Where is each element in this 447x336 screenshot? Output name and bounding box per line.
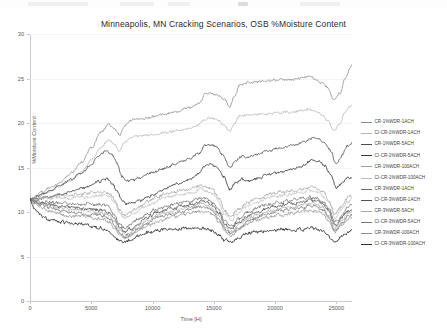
x-tick-mark — [153, 301, 154, 304]
legend-label: CI-CR-1%WDR-5ACH — [375, 154, 421, 159]
legend-item[interactable]: CI-CR-3%WDR-1ACH — [361, 195, 447, 206]
x-tick-mark — [91, 301, 92, 304]
legend-item[interactable]: CI-CR-1%WDR-5ACH — [361, 150, 447, 161]
plot-area — [30, 34, 352, 301]
legend-label: CI-CR-1%WDR-100ACH — [375, 176, 426, 181]
legend-item[interactable]: CR-1%WDR-1ACH — [361, 117, 447, 128]
y-tick-mark — [27, 212, 30, 213]
y-tick-mark — [27, 34, 30, 35]
series-line — [30, 199, 352, 243]
x-tick-mark — [214, 301, 215, 304]
x-tick-label: 25000 — [329, 305, 345, 311]
legend-swatch-icon — [361, 166, 372, 167]
legend-label: CI-CR-3%WDR-100ACH — [375, 242, 426, 247]
x-tick-label: 0 — [28, 305, 31, 311]
chart-legend: CR-1%WDR-1ACHCI-CR-1%WDR-1ACHCR-1%WDR-5A… — [361, 117, 447, 250]
legend-swatch-icon — [361, 144, 372, 145]
legend-item[interactable]: CI-CR-3%WDR-100ACH — [361, 239, 447, 250]
y-tick-label: 25 — [0, 76, 24, 82]
legend-item[interactable]: CR-3%WDR-5ACH — [361, 206, 447, 217]
x-tick-mark — [336, 301, 337, 304]
x-axis-line — [30, 301, 352, 302]
series-lines — [30, 34, 352, 301]
y-tick-label: 5 — [0, 254, 24, 260]
legend-swatch-icon — [361, 178, 372, 179]
legend-swatch-icon — [361, 122, 372, 123]
x-tick-mark — [30, 301, 31, 304]
y-tick-mark — [27, 79, 30, 80]
y-tick-label: 15 — [0, 165, 24, 171]
legend-item[interactable]: CI-CR-3%WDR-5ACH — [361, 217, 447, 228]
legend-item[interactable]: CI-CR-1%WDR-1ACH — [361, 128, 447, 139]
x-tick-label: 5000 — [85, 305, 97, 311]
legend-label: CR-1%WDR-1ACH — [375, 120, 414, 125]
legend-label: CR-3%WDR-5ACH — [375, 209, 414, 214]
legend-swatch-icon — [361, 133, 372, 134]
legend-item[interactable]: CR-1%WDR-5ACH — [361, 139, 447, 150]
y-tick-label: 20 — [0, 120, 24, 126]
x-tick-label: 10000 — [145, 305, 161, 311]
legend-swatch-icon — [361, 211, 372, 212]
legend-swatch-icon — [361, 233, 372, 234]
legend-label: CR-3%WDR-1ACH — [375, 187, 414, 192]
x-tick-mark — [275, 301, 276, 304]
x-axis-label: Time [H] — [30, 316, 352, 322]
y-tick-label: 10 — [0, 209, 24, 215]
legend-label: CI-CR-3%WDR-5ACH — [375, 220, 421, 225]
legend-label: CR-1%WDR-5ACH — [375, 142, 414, 147]
y-tick-label: 0 — [0, 298, 24, 304]
legend-label: CR-1%WDR-100ACH — [375, 165, 420, 170]
legend-label: CI-CR-1%WDR-1ACH — [375, 131, 421, 136]
legend-swatch-icon — [361, 189, 372, 190]
y-tick-mark — [27, 123, 30, 124]
series-line — [30, 65, 352, 201]
y-axis-label: %Moisture Content — [31, 100, 37, 180]
legend-label: CR-3%WDR-100ACH — [375, 231, 420, 236]
legend-item[interactable]: CR-1%WDR-100ACH — [361, 161, 447, 172]
series-line — [30, 137, 352, 200]
chart-container: Minneapolis, MN Cracking Scenarios, OSB … — [0, 9, 447, 336]
legend-item[interactable]: CR-3%WDR-100ACH — [361, 228, 447, 239]
y-tick-label: 30 — [0, 31, 24, 37]
legend-swatch-icon — [361, 155, 372, 156]
series-line — [30, 105, 352, 200]
legend-label: CI-CR-3%WDR-1ACH — [375, 198, 421, 203]
chart-title: Minneapolis, MN Cracking Scenarios, OSB … — [0, 19, 447, 29]
legend-swatch-icon — [361, 222, 372, 223]
y-tick-mark — [27, 168, 30, 169]
x-tick-label: 20000 — [267, 305, 283, 311]
y-tick-mark — [27, 257, 30, 258]
legend-swatch-icon — [361, 200, 372, 201]
legend-item[interactable]: CI-CR-1%WDR-100ACH — [361, 172, 447, 183]
x-tick-label: 15000 — [206, 305, 222, 311]
legend-item[interactable]: CR-3%WDR-1ACH — [361, 184, 447, 195]
legend-swatch-icon — [361, 244, 372, 245]
